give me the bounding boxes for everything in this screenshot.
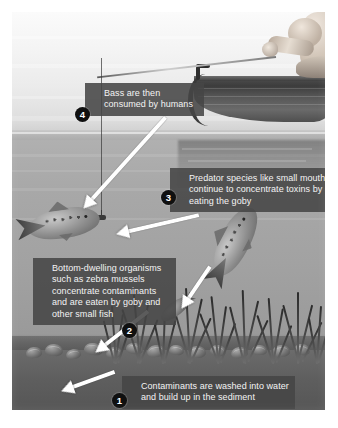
callout-1: Contaminants are washed into water and b… — [122, 376, 295, 409]
callout-4: Bass are then consumed by humans — [85, 83, 204, 116]
hull-plank-line — [198, 96, 325, 97]
callout-badge-3: 3 — [161, 190, 176, 205]
zebra-mussel — [45, 343, 64, 356]
callout-2: Bottom-dwelling organisms such as zebra … — [33, 258, 176, 325]
callout-badge-1: 1 — [112, 393, 127, 408]
illustration-plate: Bass are then consumed by humans 4 Preda… — [12, 12, 325, 410]
callout-badge-2: 2 — [122, 323, 137, 338]
callout-3: Predator species like small mouth bass c… — [170, 168, 325, 212]
hull-plank-line — [198, 104, 325, 105]
callout-badge-4: 4 — [75, 107, 90, 122]
zebra-mussel — [169, 344, 185, 355]
oarlock — [196, 66, 200, 80]
reflection-ripple — [182, 148, 312, 150]
angler-figure — [260, 12, 325, 84]
hull-plank-line — [198, 88, 325, 89]
reflection-ripple — [188, 160, 306, 162]
water-surface-highlight — [12, 132, 325, 134]
figure-canvas: Bass are then consumed by humans 4 Preda… — [0, 0, 338, 428]
angler-hand — [262, 42, 278, 57]
fishing-line — [101, 58, 102, 217]
